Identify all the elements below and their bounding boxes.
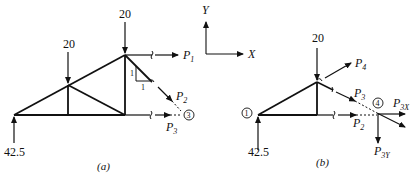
- reaction-label: 42.5: [4, 145, 25, 159]
- load-label: 20: [119, 7, 131, 21]
- x-axis-label: X: [247, 47, 256, 61]
- figure-a-labels: 20 20 42.5 1 1 P1 P2 P3 3 (a): [4, 7, 194, 173]
- load-label: 20: [312, 31, 324, 45]
- force-label-p3: P3: [165, 120, 177, 136]
- slope-label: 1: [130, 69, 134, 78]
- slope-label: 1: [141, 83, 145, 92]
- axes: [206, 22, 243, 54]
- reaction-label: 42.5: [248, 145, 269, 159]
- force-label-p3: P3: [353, 86, 365, 102]
- force-label-p3y: P3Y: [373, 144, 391, 160]
- force-label-p4: P4: [354, 56, 366, 72]
- load-label: 20: [63, 37, 75, 51]
- joint-label: 1: [245, 109, 249, 118]
- caption-a: (a): [97, 160, 110, 173]
- force-label-p3x: P3X: [392, 96, 410, 112]
- figure-b-labels: 20 42.5 1 4 P4 P3 P2 P3X P3Y (b): [245, 31, 411, 169]
- joint-label: 3: [187, 111, 191, 120]
- truss-diagram: 20 20 42.5 1 1 P1 P2 P3 3 (a) Y X: [0, 0, 416, 182]
- force-label-p2: P2: [352, 116, 364, 132]
- joint-label: 4: [376, 99, 380, 108]
- figure-b: [242, 48, 405, 150]
- y-axis-label: Y: [202, 3, 210, 17]
- force-label-p1: P1: [182, 48, 194, 64]
- caption-b: (b): [316, 156, 329, 169]
- force-label-p2: P2: [175, 89, 187, 105]
